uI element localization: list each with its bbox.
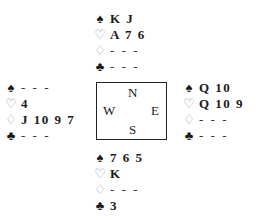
south-clubs-row: ♣3 — [92, 198, 144, 214]
east-hand: ♠Q 10 ♡Q 10 9 ♢- - - ♣- - - — [181, 80, 244, 144]
diamond-icon: ♢ — [92, 182, 108, 198]
east-spades-cards: Q 10 — [199, 80, 231, 96]
heart-icon: ♡ — [181, 96, 197, 112]
west-spades-row: ♠- - - — [3, 80, 75, 96]
west-diamonds-cards: J 10 9 7 — [21, 112, 75, 128]
south-spades-cards: 7 6 5 — [110, 150, 144, 166]
spade-icon: ♠ — [92, 150, 108, 166]
heart-icon: ♡ — [92, 27, 108, 43]
south-hearts-cards: K — [110, 166, 122, 182]
north-hearts-cards: A 7 6 — [110, 27, 146, 43]
north-clubs-cards: - - - — [110, 59, 140, 75]
club-icon: ♣ — [92, 198, 108, 214]
compass-west-label: W — [103, 103, 115, 119]
club-icon: ♣ — [92, 59, 108, 75]
west-hearts-row: ♡4 — [3, 96, 75, 112]
heart-icon: ♡ — [92, 166, 108, 182]
diamond-icon: ♢ — [3, 112, 19, 128]
compass-east-label: E — [151, 103, 159, 119]
diamond-icon: ♢ — [181, 112, 197, 128]
west-hand: ♠- - - ♡4 ♢J 10 9 7 ♣- - - — [3, 80, 75, 144]
north-diamonds-row: ♢- - - — [92, 43, 146, 59]
east-clubs-cards: - - - — [199, 128, 229, 144]
west-clubs-row: ♣- - - — [3, 128, 75, 144]
south-clubs-cards: 3 — [110, 198, 118, 214]
north-hand: ♠K J ♡A 7 6 ♢- - - ♣- - - — [92, 11, 146, 75]
east-clubs-row: ♣- - - — [181, 128, 244, 144]
west-hearts-cards: 4 — [21, 96, 29, 112]
heart-icon: ♡ — [3, 96, 19, 112]
south-hand: ♠7 6 5 ♡K ♢- - - ♣3 — [92, 150, 144, 214]
south-diamonds-cards: - - - — [110, 182, 140, 198]
north-diamonds-cards: - - - — [110, 43, 140, 59]
club-icon: ♣ — [181, 128, 197, 144]
spade-icon: ♠ — [3, 80, 19, 96]
east-diamonds-cards: - - - — [199, 112, 229, 128]
club-icon: ♣ — [3, 128, 19, 144]
east-diamonds-row: ♢- - - — [181, 112, 244, 128]
north-spades-cards: K J — [110, 11, 134, 27]
south-diamonds-row: ♢- - - — [92, 182, 144, 198]
west-clubs-cards: - - - — [21, 128, 51, 144]
west-diamonds-row: ♢J 10 9 7 — [3, 112, 75, 128]
east-hearts-cards: Q 10 9 — [199, 96, 244, 112]
spade-icon: ♠ — [181, 80, 197, 96]
north-hearts-row: ♡A 7 6 — [92, 27, 146, 43]
east-spades-row: ♠Q 10 — [181, 80, 244, 96]
south-spades-row: ♠7 6 5 — [92, 150, 144, 166]
diamond-icon: ♢ — [92, 43, 108, 59]
south-hearts-row: ♡K — [92, 166, 144, 182]
west-spades-cards: - - - — [21, 80, 51, 96]
east-hearts-row: ♡Q 10 9 — [181, 96, 244, 112]
north-spades-row: ♠K J — [92, 11, 146, 27]
compass-box: N W E S — [96, 82, 167, 140]
north-clubs-row: ♣- - - — [92, 59, 146, 75]
spade-icon: ♠ — [92, 11, 108, 27]
compass-north-label: N — [128, 85, 137, 101]
compass-south-label: S — [129, 122, 136, 138]
